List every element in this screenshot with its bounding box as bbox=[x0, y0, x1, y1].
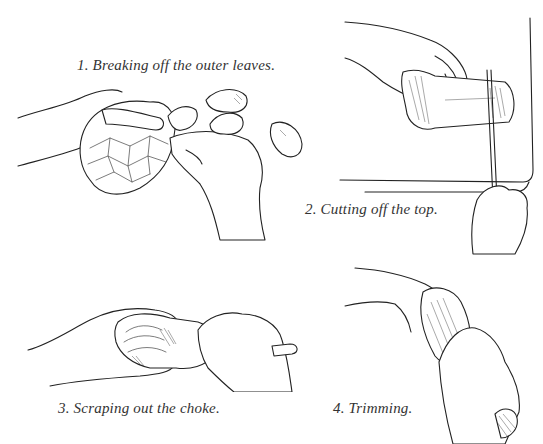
scraping-choke-drawing-icon bbox=[20, 300, 310, 392]
step-2-illustration bbox=[335, 10, 543, 255]
cutting-top-drawing-icon bbox=[335, 10, 543, 255]
step-1-illustration bbox=[10, 88, 305, 243]
step-3-illustration bbox=[20, 300, 310, 392]
breaking-leaves-drawing-icon bbox=[10, 88, 305, 243]
step-1-caption: 1. Breaking off the outer leaves. bbox=[77, 57, 275, 74]
step-4-caption: 4. Trimming. bbox=[333, 400, 413, 417]
step-2-caption: 2. Cutting off the top. bbox=[305, 201, 438, 218]
step-3-caption: 3. Scraping out the choke. bbox=[58, 400, 220, 417]
